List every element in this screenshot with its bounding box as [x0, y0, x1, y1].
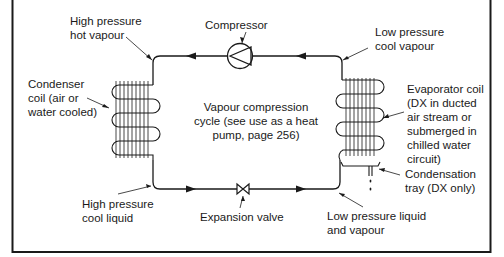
- drip-drops: [370, 179, 372, 190]
- pipe-top-left: [153, 56, 227, 85]
- pipe-bottom-left: [153, 160, 237, 189]
- arrow-top-left: [186, 53, 196, 60]
- arrow-top-right: [296, 53, 306, 60]
- pipe-bottom-right: [249, 160, 340, 189]
- arrow-bottom-right: [296, 186, 306, 193]
- label-high-pressure-cool-liquid: High pressure cool liquid: [82, 197, 154, 225]
- label-condenser-coil: Condenser coil (air or water cooled): [28, 77, 97, 119]
- label-compressor: Compressor: [205, 18, 268, 32]
- label-high-pressure-hot-vapour: High pressure hot vapour: [70, 14, 142, 42]
- label-low-pressure-cool-vapour: Low pressure cool vapour: [375, 25, 444, 53]
- label-low-pressure-liquid-vapour: Low pressure liquid and vapour: [327, 209, 426, 237]
- condensation-tray-symbol: [341, 162, 380, 176]
- expansion-valve-symbol: [237, 184, 249, 194]
- arrow-bottom-left: [186, 186, 196, 193]
- label-condensation-tray: Condensation tray (DX only): [405, 167, 476, 195]
- compressor-symbol: [228, 44, 253, 69]
- evaporator-coil-symbol: [336, 78, 384, 160]
- cycle-caption: Vapour compression cycle (see use as a h…: [188, 100, 324, 142]
- label-evaporator-coil: Evaporator coil (DX in ducted air stream…: [407, 82, 484, 166]
- condenser-coil-symbol: [112, 81, 160, 160]
- label-expansion-valve: Expansion valve: [200, 210, 284, 224]
- leader-cool-liquid: [118, 186, 151, 194]
- pipe-top-right: [252, 56, 342, 80]
